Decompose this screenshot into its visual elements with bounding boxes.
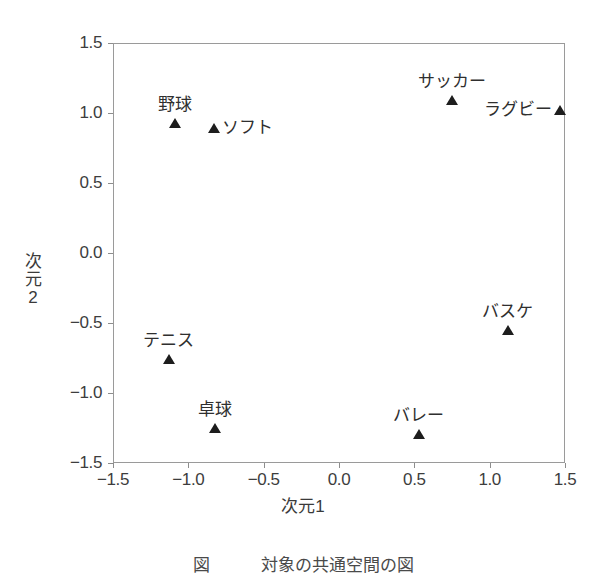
- y-axis-title-char: 次: [22, 253, 44, 271]
- y-tick-label: −1.0: [70, 383, 102, 403]
- x-tick-label: 0.0: [328, 470, 350, 490]
- x-tick: [490, 463, 491, 468]
- y-axis-title-char: 元: [22, 271, 44, 289]
- x-tick: [264, 463, 265, 468]
- x-tick: [414, 463, 415, 468]
- y-tick: [108, 113, 113, 114]
- y-tick-label: 1.0: [80, 103, 102, 123]
- data-point-label: バスケ: [482, 303, 533, 320]
- x-tick: [113, 463, 114, 468]
- triangle-marker-icon: [163, 354, 175, 364]
- data-point-label: 野球: [158, 96, 192, 113]
- y-axis-title: 次元2: [22, 253, 44, 307]
- x-tick-label: 0.5: [403, 470, 425, 490]
- y-tick: [108, 393, 113, 394]
- y-tick: [108, 43, 113, 44]
- y-tick-label: 1.5: [80, 33, 102, 53]
- triangle-marker-icon: [502, 325, 514, 335]
- y-tick: [108, 463, 113, 464]
- data-point-label: 卓球: [198, 401, 232, 418]
- y-tick-label: −0.5: [70, 313, 102, 333]
- data-point-label: サッカー: [418, 73, 486, 90]
- data-point-label: バレー: [393, 407, 444, 424]
- x-tick: [339, 463, 340, 468]
- x-tick-label: −0.5: [248, 470, 280, 490]
- triangle-marker-icon: [169, 118, 181, 128]
- triangle-marker-icon: [446, 95, 458, 105]
- data-point-label: ラグビー: [484, 101, 552, 118]
- y-axis-title-char: 2: [22, 289, 44, 307]
- triangle-marker-icon: [554, 105, 566, 115]
- x-axis-title: 次元1: [0, 492, 606, 517]
- figure-caption: 図 対象の共通空間の図: [0, 551, 606, 576]
- triangle-marker-icon: [208, 123, 220, 133]
- data-point-label: テニス: [143, 332, 194, 349]
- triangle-marker-icon: [413, 429, 425, 439]
- x-tick-label: 1.5: [554, 470, 576, 490]
- x-tick-label: −1.5: [97, 470, 129, 490]
- x-tick-label: −1.0: [172, 470, 204, 490]
- triangle-marker-icon: [209, 423, 221, 433]
- data-point-label: ソフト: [222, 119, 273, 136]
- y-tick-label: −1.5: [70, 453, 102, 473]
- y-tick-label: 0.5: [80, 173, 102, 193]
- y-tick: [108, 323, 113, 324]
- x-tick: [565, 463, 566, 468]
- y-tick: [108, 183, 113, 184]
- x-tick-label: 1.0: [478, 470, 500, 490]
- y-tick: [108, 253, 113, 254]
- y-tick-label: 0.0: [80, 243, 102, 263]
- x-tick: [188, 463, 189, 468]
